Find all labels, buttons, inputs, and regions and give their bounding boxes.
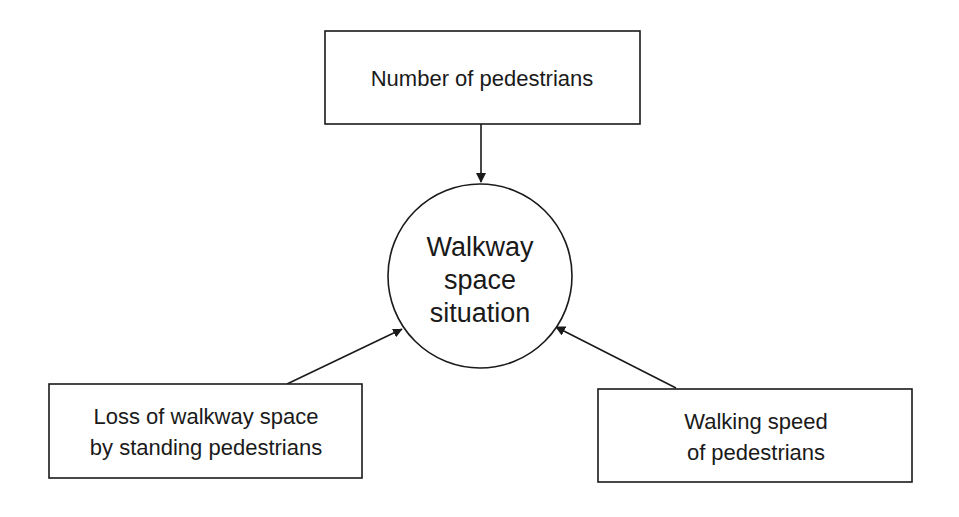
- node-loss-of-walkway-space: Loss of walkway space by standing pedest…: [49, 384, 362, 478]
- node-label-line-1: Loss of walkway space: [94, 404, 319, 429]
- node-walking-speed: Walking speed of pedestrians: [598, 389, 912, 482]
- influence-diagram: Number of pedestrians Walkway space situ…: [0, 0, 959, 517]
- node-label: Number of pedestrians: [371, 66, 594, 91]
- node-label-line-2: of pedestrians: [687, 440, 825, 465]
- edge-speed-to-center: [556, 327, 676, 388]
- node-label-line-2: by standing pedestrians: [90, 435, 322, 460]
- node-box: [598, 389, 912, 482]
- node-label-line-2: space: [444, 265, 516, 295]
- node-walkway-space-situation: Walkway space situation: [388, 184, 572, 368]
- node-label-line-1: Walkway: [426, 232, 534, 262]
- node-box: [49, 384, 362, 478]
- node-number-of-pedestrians: Number of pedestrians: [325, 31, 640, 124]
- node-label-line-1: Walking speed: [684, 409, 827, 434]
- node-label-line-3: situation: [430, 298, 531, 328]
- edge-loss-to-center: [287, 329, 402, 384]
